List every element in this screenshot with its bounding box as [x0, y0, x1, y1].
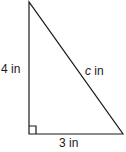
right-triangle-diagram: 4 in 3 in c in	[0, 0, 126, 152]
vertical-side-label: 4 in	[1, 62, 20, 76]
triangle-outline	[29, 2, 123, 134]
hypotenuse-label: c in	[85, 64, 104, 78]
horizontal-side-label: 3 in	[59, 136, 78, 150]
right-angle-marker-icon	[29, 126, 36, 134]
